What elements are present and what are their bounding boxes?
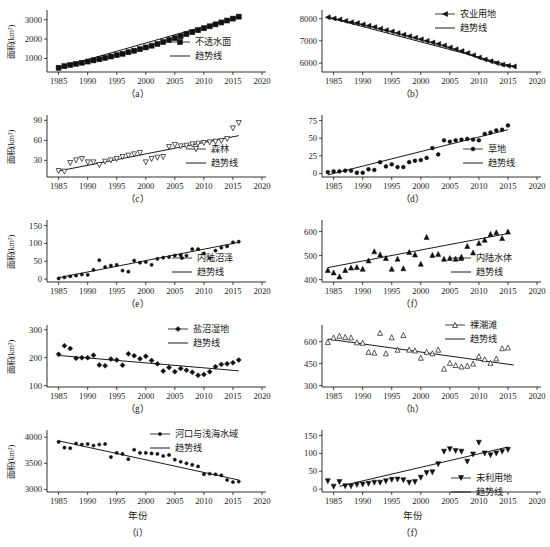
data-point-marker — [80, 443, 83, 446]
data-point-marker — [337, 480, 342, 485]
data-point-marker — [214, 473, 217, 476]
data-point-marker — [172, 369, 177, 374]
data-point-marker — [366, 481, 371, 486]
x-tick-label: 2020 — [253, 391, 270, 401]
data-point-marker — [91, 353, 96, 358]
data-point-marker — [476, 55, 481, 60]
x-tick-label: 2005 — [441, 391, 458, 401]
x-tick-label: 1985 — [50, 496, 67, 506]
data-point-marker — [143, 354, 148, 359]
data-point-marker — [56, 65, 61, 70]
data-point-marker — [74, 442, 77, 445]
x-tick-label: 1985 — [50, 391, 67, 401]
legend-c: 森林趋势线 — [186, 143, 238, 168]
x-axis-title: 年份 — [0, 508, 275, 522]
data-point-marker — [384, 165, 388, 169]
data-point-marker — [506, 124, 510, 128]
x-tick-label: 2000 — [412, 496, 429, 506]
data-point-marker — [505, 229, 510, 234]
data-point-marker — [115, 263, 118, 266]
data-point-marker — [173, 458, 176, 461]
y-axis-title: 面积(km²) — [6, 444, 16, 479]
data-point-marker — [372, 249, 377, 254]
data-point-marker — [395, 256, 400, 261]
data-point-marker — [383, 479, 388, 484]
x-tick-label: 2000 — [412, 286, 429, 296]
data-point-marker — [390, 162, 394, 166]
x-tick-label: 2000 — [137, 496, 154, 506]
data-point-marker — [115, 451, 118, 454]
data-point-marker — [343, 169, 347, 173]
panel-caption-e: （e） — [0, 296, 275, 310]
data-point-marker — [494, 129, 498, 133]
y-tick-label: 300 — [304, 381, 317, 391]
legend-trend-label: 趋势线 — [488, 157, 515, 168]
data-point-marker — [424, 234, 429, 239]
y-tick-label: 50 — [33, 256, 42, 266]
data-point-marker — [459, 449, 464, 454]
legend-series-label: 裸潮滩 — [470, 319, 497, 330]
data-point-marker — [97, 163, 102, 168]
data-point-marker — [407, 160, 411, 164]
data-point-marker — [162, 454, 165, 457]
panel-caption-j: （f） — [275, 525, 550, 539]
data-point-marker — [138, 261, 141, 264]
data-point-marker — [220, 474, 223, 477]
data-point-marker — [331, 270, 336, 275]
legend-trend-label: 趋势线 — [195, 50, 222, 61]
data-point-marker — [149, 43, 154, 48]
x-tick-label: 2010 — [195, 76, 212, 86]
data-point-marker — [237, 240, 240, 243]
data-point-marker — [453, 448, 458, 453]
data-point-marker — [488, 232, 493, 237]
chart-panel-e: 0501001501985199019952000200520102015202… — [0, 210, 275, 315]
x-tick-label: 1985 — [325, 181, 342, 191]
data-point-marker — [98, 443, 101, 446]
data-point-marker — [155, 41, 160, 46]
data-point-marker — [74, 158, 79, 163]
data-point-marker — [62, 343, 67, 348]
chart-panel-j: 0501001501985199019952000200520102015202… — [275, 420, 550, 547]
data-point-marker — [401, 165, 405, 169]
data-point-marker — [133, 448, 136, 451]
data-point-marker — [213, 22, 218, 27]
data-point-marker — [103, 55, 108, 60]
legend-trend-label: 趋势线 — [197, 266, 224, 277]
legend-f: 内陆水体趋势线 — [451, 252, 512, 277]
y-tick-label: 600 — [304, 227, 317, 237]
data-point-marker — [219, 20, 224, 25]
data-point-marker — [172, 143, 177, 148]
panel-caption-g: （g） — [0, 401, 275, 415]
data-point-marker — [500, 449, 505, 454]
data-point-marker — [178, 366, 183, 371]
data-point-marker — [80, 273, 83, 276]
x-tick-label: 1985 — [50, 76, 67, 86]
data-point-marker — [126, 351, 131, 356]
x-tick-label: 2000 — [137, 76, 154, 86]
x-tick-label: 2020 — [528, 391, 545, 401]
x-tick-label: 2000 — [137, 286, 154, 296]
data-point-marker — [98, 259, 101, 262]
x-tick-label: 1990 — [354, 286, 371, 296]
legend-trend-label: 趋势线 — [211, 157, 238, 168]
chart-panel-a: 1000200030001985199019952000200520102015… — [0, 0, 275, 105]
x-tick-label: 1990 — [79, 391, 96, 401]
data-point-marker — [505, 345, 510, 350]
y-tick-label: 400 — [304, 275, 317, 285]
x-tick-label: 2015 — [224, 76, 241, 86]
data-point-marker — [459, 364, 464, 369]
data-point-marker — [196, 248, 199, 251]
y-tick-label: 7000 — [300, 36, 317, 46]
x-tick-label: 1990 — [79, 181, 96, 191]
x-tick-label: 1990 — [354, 391, 371, 401]
data-point-marker — [69, 447, 72, 450]
data-point-marker — [219, 139, 224, 144]
legend-b: 农业用地趋势线 — [435, 8, 496, 33]
data-point-marker — [337, 274, 342, 279]
data-point-marker — [231, 480, 234, 483]
data-point-marker — [92, 444, 95, 447]
x-tick-label: 2015 — [499, 496, 516, 506]
x-tick-label: 1990 — [354, 76, 371, 86]
data-point-marker — [230, 360, 235, 365]
data-point-marker — [442, 256, 447, 261]
